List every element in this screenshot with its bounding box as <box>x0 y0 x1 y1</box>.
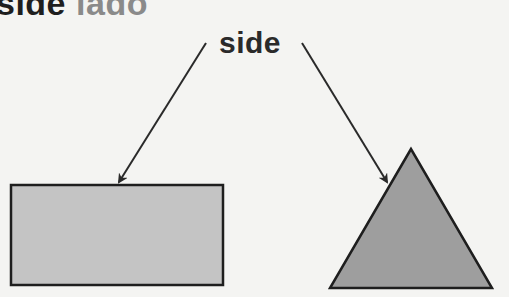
shapes-diagram <box>0 0 509 297</box>
rectangle-shape <box>11 185 223 285</box>
arrow-to-triangle-side <box>302 43 387 182</box>
arrow-to-rectangle-side <box>119 43 206 182</box>
triangle-shape <box>330 149 492 288</box>
